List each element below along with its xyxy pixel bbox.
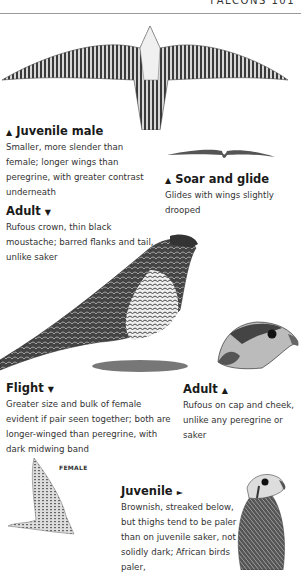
caption-title: Flight [6,381,44,395]
caption-juvenile: Juvenile ► Brownish, streaked below, but… [121,484,246,575]
adult-head-illustration [212,312,302,372]
pointer-up-icon: ▲ [165,176,171,185]
caption-text: Rufous on cap and cheek, unlike any pere… [183,398,298,443]
adult-perched-illustration [0,230,210,380]
caption-title: Soar and glide [175,172,269,186]
juvenile-male-flight-illustration [0,18,301,130]
caption-text: Brownish, streaked below, but thighs ten… [121,500,246,575]
pointer-down-icon: ▼ [48,385,54,394]
caption-title: Juvenile [121,484,173,498]
caption-flight: Flight ▼ Greater size and bulk of female… [6,381,176,457]
female-flight-illustration [6,458,76,548]
page-header: FALCONS 101 [0,0,301,14]
running-title: FALCONS 101 [210,0,295,6]
caption-title: Juvenile male [16,124,103,138]
juvenile-illustration [231,470,301,570]
caption-text: Glides with wings slightly drooped [165,188,295,218]
caption-soar-glide: ▲ Soar and glide Glides with wings sligh… [165,172,295,218]
caption-text: Smaller, more slender than female; longe… [6,140,156,200]
pointer-up-icon: ▲ [6,128,12,137]
caption-juvenile-male: ▲ Juvenile male Smaller, more slender th… [6,124,156,200]
caption-title: Adult [183,382,218,396]
caption-title: Adult [6,204,41,218]
pointer-right-icon: ► [177,488,183,497]
caption-text: Greater size and bulk of female evident … [6,397,176,457]
caption-adult-head: Adult ▲ Rufous on cap and cheek, unlike … [183,382,298,443]
pointer-up-icon: ▲ [222,386,228,395]
pointer-down-icon: ▼ [45,208,51,217]
female-label: FEMALE [59,464,88,471]
header-rule [0,13,301,14]
soar-glide-silhouette [165,145,285,165]
